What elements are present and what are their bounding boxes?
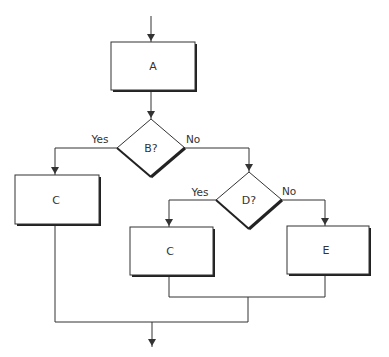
decision-diamond-d: D? [216, 172, 282, 229]
d-yes-label: Yes [191, 186, 209, 198]
merge-inner-connector [169, 276, 325, 322]
decision-d-label: D? [242, 194, 256, 207]
process-box-c-right: C [130, 227, 215, 277]
box-c-right-label: C [166, 245, 174, 258]
box-c-left-label: C [52, 194, 60, 207]
box-e-label: E [323, 244, 330, 257]
process-box-e: E [287, 226, 371, 276]
entry-arrow [147, 16, 155, 42]
exit-arrow [148, 322, 156, 347]
flowchart-canvas: A B? Yes No C D? Yes [0, 0, 389, 357]
d-no-label: No [282, 185, 296, 197]
branch-d-no: No [282, 185, 329, 226]
process-box-a: A [111, 42, 197, 92]
b-yes-label: Yes [91, 133, 109, 145]
arrow-a-to-b [147, 92, 155, 119]
process-box-c-left: C [15, 175, 101, 226]
branch-b-yes: Yes [51, 133, 117, 175]
b-no-label: No [186, 133, 200, 145]
box-a-label: A [149, 60, 157, 73]
decision-b-label: B? [144, 142, 158, 155]
decision-diamond-b: B? [117, 119, 185, 177]
branch-d-yes: Yes [165, 186, 216, 227]
branch-b-no: No [185, 133, 253, 172]
